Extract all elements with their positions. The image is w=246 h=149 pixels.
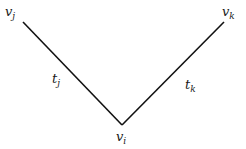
edge-tk [122, 22, 224, 125]
diagram-canvas [0, 0, 246, 149]
edge-label-tk: tk [185, 78, 196, 94]
edge-label-tj: tj [52, 72, 60, 88]
node-vk-subscript: k [229, 11, 234, 21]
node-label-vk: vk [222, 5, 235, 21]
node-label-vi: vi [116, 130, 126, 146]
edge-tj [23, 22, 122, 125]
node-vj-subscript: j [12, 11, 15, 21]
edge-tj-subscript: j [57, 78, 60, 88]
node-vi-subscript: i [123, 136, 126, 146]
edge-tk-subscript: k [190, 84, 195, 94]
node-label-vj: vj [5, 5, 15, 21]
